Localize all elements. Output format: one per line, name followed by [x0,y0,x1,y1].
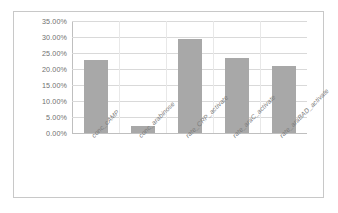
y-axis-tick: 20.00% [42,65,67,74]
chart-container: 35.00% 30.00% 25.00% 20.00% 15.00% 10.00… [13,11,324,198]
y-axis-tick: 0.00% [46,129,67,138]
y-axis-tick: 25.00% [42,49,67,58]
y-axis-tick: 30.00% [42,33,67,42]
y-axis-tick: 5.00% [46,113,67,122]
y-axis-tick: 15.00% [42,81,67,90]
y-axis-tick-labels: 35.00% 30.00% 25.00% 20.00% 15.00% 10.00… [14,12,70,142]
x-axis-category-labels: conc_cAMPconc_arabinoserate_CRP_activate… [72,134,307,198]
y-axis-tick: 10.00% [42,97,67,106]
y-axis-tick: 35.00% [42,17,67,26]
